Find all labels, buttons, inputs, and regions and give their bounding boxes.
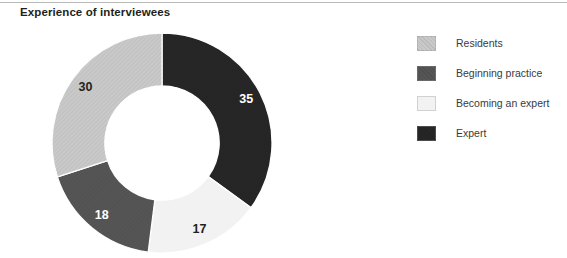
- donut-slice-value: 35: [239, 92, 253, 106]
- legend-item[interactable]: Residents: [417, 28, 567, 58]
- donut-slice-value: 18: [95, 208, 109, 222]
- top-divider: [0, 2, 567, 3]
- legend-item[interactable]: Beginning practice: [417, 58, 567, 88]
- legend-label: Beginning practice: [456, 67, 542, 79]
- legend-swatch: [417, 96, 436, 111]
- chart-legend: ResidentsBeginning practiceBecoming an e…: [417, 28, 567, 148]
- legend-swatch: [417, 126, 436, 141]
- chart-figure: Experience of interviewees 35171830 Resi…: [0, 0, 567, 258]
- legend-label: Becoming an expert: [456, 97, 549, 109]
- donut-chart: 35171830: [30, 22, 300, 258]
- page-title: Experience of interviewees: [20, 6, 170, 18]
- donut-slice-texture: [162, 33, 272, 208]
- legend-label: Residents: [456, 37, 503, 49]
- legend-item[interactable]: Expert: [417, 118, 567, 148]
- donut-slice-value: 17: [193, 222, 207, 236]
- legend-swatch: [417, 66, 436, 81]
- donut-slice-texture: [52, 33, 162, 177]
- legend-label: Expert: [456, 127, 486, 139]
- donut-slice-value: 30: [79, 80, 93, 94]
- donut-slices: [52, 33, 272, 253]
- donut-chart-svg: 35171830: [30, 22, 300, 258]
- legend-swatch: [417, 36, 436, 51]
- legend-item[interactable]: Becoming an expert: [417, 88, 567, 118]
